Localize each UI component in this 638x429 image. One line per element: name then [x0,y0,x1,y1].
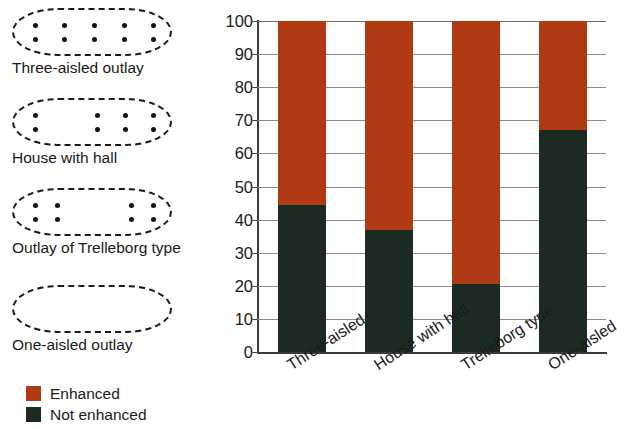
y-axis-tick-mark [251,120,258,121]
house-outline-icon [12,8,172,56]
post-hole-marker [62,23,67,28]
y-axis-tick-mark [251,352,258,353]
post-hole-marker [151,203,156,208]
post-hole-marker [33,203,38,208]
y-axis-tick-mark [251,153,258,154]
y-axis-tick-label: 0 [219,344,253,360]
post-hole-marker [151,113,156,118]
y-axis-tick-mark [251,87,258,88]
post-hole-marker [129,203,134,208]
house-outline-icon [12,285,172,333]
stacked-bar-figure: Three-aisled outlay House with hall Outl… [0,0,638,429]
post-hole-marker [122,23,127,28]
bar-segment-enhanced[interactable] [539,21,587,130]
post-hole-marker [151,217,156,222]
y-axis-tick-label: 10 [219,311,253,327]
post-hole-marker [92,37,97,42]
house-outlay-panel: Three-aisled outlay House with hall Outl… [0,0,215,429]
y-axis-tick-label: 90 [219,46,253,62]
legend-label-not-enhanced: Not enhanced [50,406,147,423]
post-hole-marker [33,127,38,132]
y-axis-tick-mark [251,21,258,22]
legend: Enhanced Not enhanced [26,383,147,425]
post-hole-marker [123,127,128,132]
y-axis-tick-label: 70 [219,112,253,128]
post-hole-marker [151,37,156,42]
y-axis-tick-label: 60 [219,145,253,161]
bar-segment-enhanced[interactable] [365,21,413,230]
y-axis-tick-mark [251,54,258,55]
house-outlay-item-one-aisled: One-aisled outlay [12,285,182,354]
y-axis-tick-mark [251,253,258,254]
house-outlay-item-three-aisled: Three-aisled outlay [12,8,182,77]
stacked-bar[interactable] [365,21,413,352]
post-hole-marker [123,113,128,118]
post-hole-marker [122,37,127,42]
bar-segment-enhanced[interactable] [278,21,326,205]
legend-label-enhanced: Enhanced [50,385,120,402]
post-hole-marker [129,217,134,222]
plot-region [258,21,606,352]
y-axis-tick-label: 50 [219,179,253,195]
y-axis-tick-mark [251,319,258,320]
post-hole-marker [55,203,60,208]
bar-segment-not-enhanced[interactable] [278,205,326,352]
y-axis-tick-mark [251,286,258,287]
house-outlay-caption: Three-aisled outlay [12,59,182,77]
y-axis-tick-label: 100 [219,13,253,29]
y-axis-tick-mark [251,220,258,221]
post-hole-marker [151,23,156,28]
house-outlay-caption: Outlay of Trelleborg type [12,239,182,257]
y-axis-tick-label: 20 [219,278,253,294]
house-outlay-caption: One-aisled outlay [12,336,182,354]
post-hole-marker [92,23,97,28]
house-outlay-item-trelleborg: Outlay of Trelleborg type [12,188,182,257]
chart-area: 1009080706050403020100 Three-aisledHouse… [215,0,638,429]
post-hole-marker [62,37,67,42]
legend-item-enhanced: Enhanced [26,383,147,404]
post-hole-marker [151,127,156,132]
post-hole-marker [95,127,100,132]
house-outlay-caption: House with hall [12,149,182,167]
legend-item-not-enhanced: Not enhanced [26,404,147,425]
post-hole-marker [55,217,60,222]
bar-segment-not-enhanced[interactable] [365,230,413,352]
y-axis-tick-label: 30 [219,245,253,261]
house-outline-icon [12,188,172,236]
post-hole-marker [95,113,100,118]
y-axis-tick-label: 80 [219,79,253,95]
y-axis-tick-mark [251,187,258,188]
post-hole-marker [33,37,38,42]
house-outlay-item-house-with-hall: House with hall [12,98,182,167]
stacked-bar[interactable] [278,21,326,352]
legend-swatch-enhanced [26,386,41,401]
legend-swatch-not-enhanced [26,407,41,422]
post-hole-marker [33,113,38,118]
post-hole-marker [33,23,38,28]
post-hole-marker [33,217,38,222]
bar-segment-enhanced[interactable] [452,21,500,284]
y-axis-tick-label: 40 [219,212,253,228]
house-outline-icon [12,98,172,146]
